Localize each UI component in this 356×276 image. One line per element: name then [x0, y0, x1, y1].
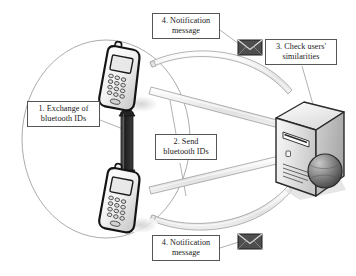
pipe-send-bottom — [149, 156, 284, 194]
server-tower-icon — [276, 102, 346, 200]
envelope-icon-top — [238, 40, 262, 55]
callout-exchange-line2: bluetooth IDs — [31, 114, 96, 124]
callout-notification-top-line1: 4. Notification — [156, 16, 216, 26]
callout-send-bluetooth-ids: 2. Send bluetooth IDs — [155, 134, 217, 160]
envelope-icon-bottom — [238, 234, 262, 249]
callout-check-line1: 3. Check users' — [269, 42, 333, 52]
diagram-canvas: 1. Exchange of bluetooth IDs 2. Send blu… — [0, 0, 356, 276]
callout-check-similarities: 3. Check users' similarities — [265, 39, 337, 65]
callout-notification-bottom: 4. Notification message — [152, 235, 220, 261]
leader-line-send-upper — [170, 100, 176, 134]
callout-notification-top: 4. Notification message — [152, 13, 220, 39]
pipe-notification-bottom — [150, 186, 292, 230]
globe-icon — [308, 154, 342, 188]
callout-send-line1: 2. Send — [159, 137, 213, 147]
callout-notification-bottom-line2: message — [156, 248, 216, 258]
callout-check-line2: similarities — [269, 52, 333, 62]
callout-notification-top-line2: message — [156, 26, 216, 36]
callout-notification-bottom-line1: 4. Notification — [156, 238, 216, 248]
callout-exchange-line1: 1. Exchange of — [31, 104, 96, 114]
pipe-send-top — [149, 87, 284, 128]
callout-exchange-bluetooth-ids: 1. Exchange of bluetooth IDs — [27, 101, 100, 127]
callout-send-line2: bluetooth IDs — [159, 147, 213, 157]
leader-line-notification-top — [220, 30, 239, 44]
